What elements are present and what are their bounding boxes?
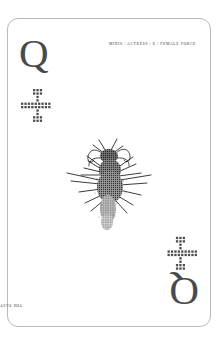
card-index-bottom-right: Q	[153, 222, 199, 310]
card-stage: Q	[0, 0, 218, 340]
playing-card[interactable]: Q	[7, 18, 211, 327]
halftone-insect-illustration	[57, 123, 161, 231]
card-index-top-left: Q	[19, 35, 65, 123]
rank-letter-top: Q	[19, 35, 65, 73]
dotted-cross-pip-bottom	[163, 236, 199, 272]
caption-top: MIXIS / ACTRESS / E / FEMALE FORCE	[109, 43, 196, 47]
rank-letter-bottom: Q	[153, 272, 199, 310]
caption-bottom: THE PAST SET / THE NEW PLACE	[0, 302, 22, 306]
dotted-cross-pip-top	[19, 87, 55, 123]
